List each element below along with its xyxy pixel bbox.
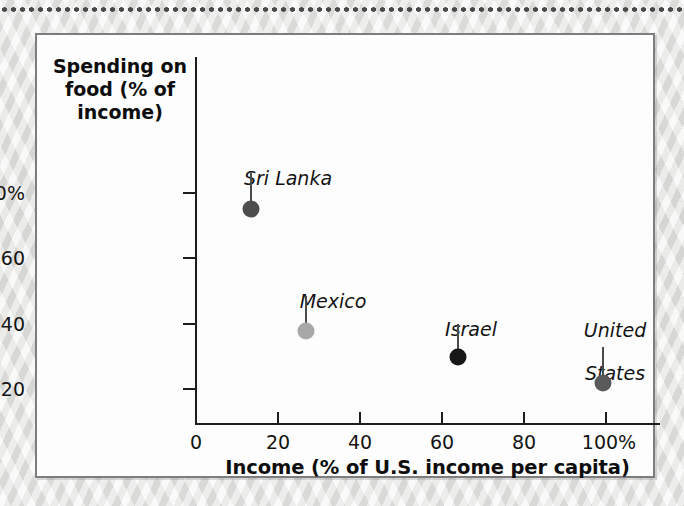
- x-axis-tick-label: 80: [512, 433, 536, 452]
- x-axis-tick: [277, 412, 279, 425]
- y-axis-title-line-1: Spending on: [47, 55, 193, 78]
- data-point-label-line: United: [584, 319, 646, 341]
- y-axis-tick-label: 40: [1, 315, 25, 334]
- data-point-sri-lanka[interactable]: [243, 201, 260, 218]
- leader-line-sri-lanka: [250, 173, 252, 203]
- x-axis-tick-label: 20: [266, 433, 290, 452]
- data-point-label-line: Sri Lanka: [244, 167, 332, 189]
- y-axis-tick: [183, 192, 196, 194]
- x-axis-line: [195, 423, 660, 425]
- data-point-united-states[interactable]: [595, 375, 612, 392]
- x-axis-tick: [523, 412, 525, 425]
- data-point-label-sri-lanka: Sri Lanka: [244, 147, 332, 190]
- leader-line-mexico: [305, 296, 307, 326]
- y-axis-tick-label: 80%: [0, 184, 25, 203]
- x-axis-tick: [359, 412, 361, 425]
- x-axis-tick: [441, 412, 443, 425]
- x-axis-title: Income (% of U.S. income per capita): [195, 456, 660, 479]
- x-axis-tick-label: 40: [348, 433, 372, 452]
- y-axis-tick: [183, 323, 196, 325]
- data-point-label-mexico: Mexico: [300, 270, 367, 313]
- dotted-rule-divider: [0, 6, 684, 13]
- y-axis-tick-label: 20: [1, 380, 25, 399]
- x-axis-tick-label: 0: [190, 433, 202, 452]
- y-axis-line: [195, 57, 197, 425]
- data-point-label-united-states: United States: [584, 299, 646, 384]
- data-point-label-israel: Israel: [445, 298, 497, 341]
- y-axis-tick-label: 60: [1, 249, 25, 268]
- leader-line-united-states: [602, 347, 604, 377]
- x-axis-tick-label: 100%: [582, 433, 636, 452]
- y-axis-tick: [183, 388, 196, 390]
- scatter-plot: Spending on food (% of income) 80% 60 40…: [37, 35, 653, 476]
- x-axis-tick: [605, 412, 607, 425]
- data-point-label-line: Mexico: [300, 290, 367, 312]
- data-point-mexico[interactable]: [298, 323, 315, 340]
- figure-panel: Spending on food (% of income) 80% 60 40…: [35, 33, 655, 478]
- y-axis-tick: [183, 257, 196, 259]
- y-axis-title-line-2: food (% of: [47, 78, 193, 101]
- y-axis-title: Spending on food (% of income): [47, 55, 193, 125]
- data-point-israel[interactable]: [450, 349, 467, 366]
- data-point-label-line: Israel: [445, 318, 497, 340]
- x-axis-tick-label: 60: [430, 433, 454, 452]
- y-axis-title-line-3: income): [47, 101, 193, 124]
